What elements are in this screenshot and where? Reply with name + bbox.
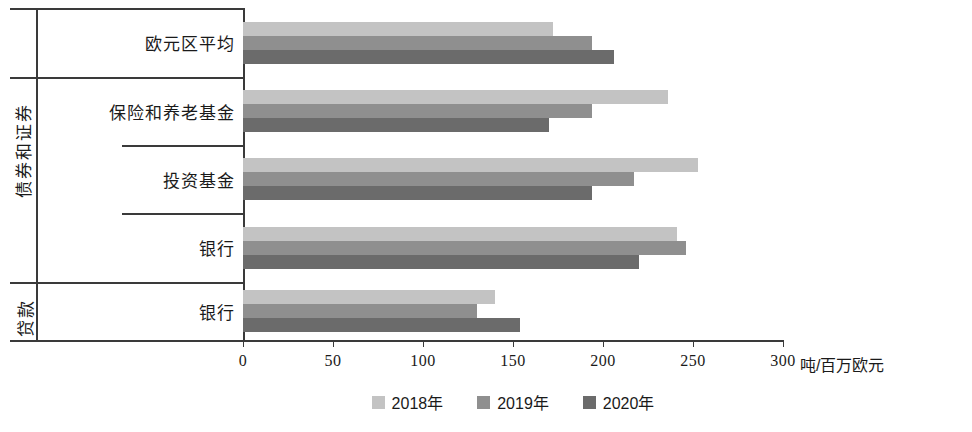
x-tick-label-0: 0 — [239, 352, 248, 370]
bar-2020年-row1 — [243, 118, 549, 132]
bar-2019年-row3 — [243, 241, 686, 255]
chart-legend: 2018年 2019年 2020年 — [243, 388, 783, 416]
x-tick-label-50: 50 — [325, 352, 342, 370]
bar-2020年-row3 — [243, 255, 639, 269]
row-label-text: 保险和养老基金 — [109, 99, 243, 124]
row-label-investment-funds: 投资基金 — [0, 145, 243, 213]
bar-2019年-row1 — [243, 104, 592, 118]
row-label-text: 银行 — [199, 235, 243, 260]
category-label-gutter: 债券和证券 贷款 欧元区平均 保险和养老基金 投资基金 银行 银行 — [0, 0, 243, 348]
legend-label: 2019年 — [497, 390, 549, 414]
row-label-text: 银行 — [199, 299, 243, 324]
legend-swatch-icon — [583, 396, 596, 409]
legend-item-2019[interactable]: 2019年 — [477, 390, 549, 414]
bar-chart: 债券和证券 贷款 欧元区平均 保险和养老基金 投资基金 银行 银行 050100… — [0, 0, 972, 432]
bar-2018年-row2 — [243, 158, 698, 172]
bar-2018年-row0 — [243, 22, 553, 36]
bar-2020年-row2 — [243, 186, 592, 200]
bar-2020年-row4 — [243, 318, 520, 332]
row-label-text: 欧元区平均 — [145, 30, 243, 55]
row-label-loans-banks: 银行 — [0, 282, 243, 340]
x-tick-150 — [513, 340, 514, 347]
row-label-euro-average: 欧元区平均 — [0, 8, 243, 77]
bar-2020年-row0 — [243, 50, 614, 64]
x-tick-100 — [423, 340, 424, 347]
plot-area — [243, 8, 783, 340]
legend-swatch-icon — [477, 396, 490, 409]
x-tick-label-250: 250 — [680, 352, 706, 370]
divider-bottom — [10, 340, 243, 342]
x-tick-label-200: 200 — [590, 352, 616, 370]
legend-swatch-icon — [372, 396, 385, 409]
x-tick-label-100: 100 — [410, 352, 436, 370]
bar-2019年-row2 — [243, 172, 634, 186]
row-label-text: 投资基金 — [163, 167, 243, 192]
legend-label: 2020年 — [603, 390, 655, 414]
row-label-insurance-pension: 保险和养老基金 — [0, 77, 243, 145]
legend-item-2018[interactable]: 2018年 — [372, 390, 444, 414]
row-label-bonds-banks: 银行 — [0, 213, 243, 282]
bar-2018年-row4 — [243, 290, 495, 304]
legend-label: 2018年 — [392, 390, 444, 414]
x-tick-250 — [693, 340, 694, 347]
x-tick-200 — [603, 340, 604, 347]
bar-2018年-row3 — [243, 227, 677, 241]
bar-2019年-row4 — [243, 304, 477, 318]
x-tick-0 — [243, 340, 244, 347]
x-tick-50 — [333, 340, 334, 347]
legend-item-2020[interactable]: 2020年 — [583, 390, 655, 414]
x-axis-unit-label: 吨/百万欧元 — [800, 352, 884, 376]
bar-2018年-row1 — [243, 90, 668, 104]
x-tick-label-150: 150 — [500, 352, 526, 370]
bar-2019年-row0 — [243, 36, 592, 50]
x-tick-label-300: 300 — [770, 352, 796, 370]
x-tick-300 — [783, 340, 784, 347]
